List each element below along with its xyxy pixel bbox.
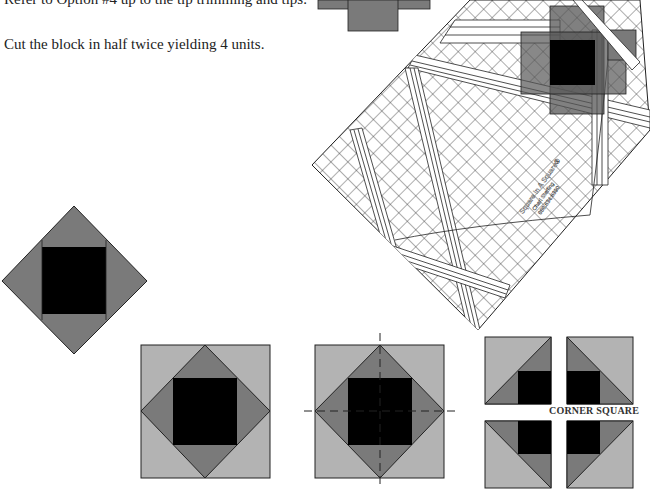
unit-top-right bbox=[567, 337, 633, 404]
square-in-square-block bbox=[141, 345, 270, 478]
illustrations: Square In A Square® Chari Sterling 888.6… bbox=[0, 0, 650, 493]
unit-bottom-right bbox=[567, 421, 633, 488]
unit-bottom-left bbox=[485, 421, 551, 488]
unit-top-left bbox=[485, 337, 551, 404]
top-fabric-fragment bbox=[318, 0, 430, 31]
block-with-cut-lines bbox=[304, 333, 456, 488]
corner-square-label: CORNER SQUARE bbox=[549, 405, 639, 416]
diamond-block bbox=[2, 206, 147, 354]
